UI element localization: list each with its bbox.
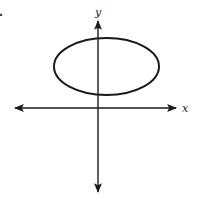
coordinate-plane: y x xyxy=(0,0,201,204)
y-axis-label: y xyxy=(94,6,102,19)
ellipse xyxy=(54,38,159,95)
x-axis-label: x xyxy=(182,102,189,115)
